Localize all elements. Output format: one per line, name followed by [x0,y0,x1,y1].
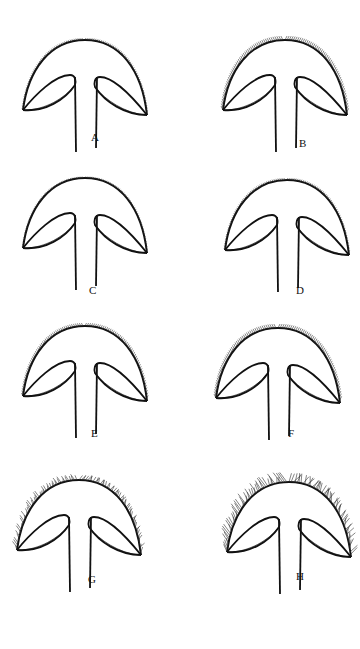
panel-label-a: A [91,131,99,143]
leaf-figure-c [20,168,170,298]
panel-label-e: E [91,427,98,439]
panel-label-h: H [296,570,304,582]
panel-label-g: G [88,573,96,585]
panel-label-d: D [296,284,304,296]
leaf-figure-d [222,170,360,300]
panel-label-c: C [89,284,96,296]
leaf-figure-b [220,30,360,160]
panel-label-f: F [288,427,294,439]
leaf-figure-f [213,318,360,448]
leaf-figure-h [224,472,360,602]
panel-label-b: B [299,137,306,149]
